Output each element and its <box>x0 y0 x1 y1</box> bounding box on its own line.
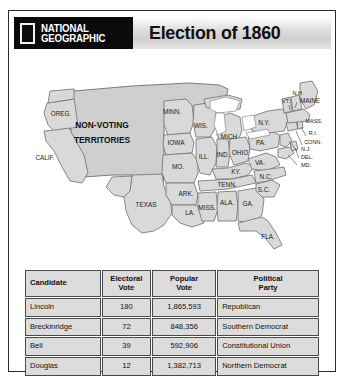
map-label-oregon: OREG. <box>51 110 72 117</box>
cell-electoral-vote: 39 <box>102 337 151 356</box>
table-row: Breckinridge 72 848,356 Southern Democra… <box>25 318 319 337</box>
map-label-new-hampshire: N.H. <box>293 90 304 96</box>
map-label-vermont: VT. <box>282 98 290 104</box>
map-label-california: CALIF. <box>35 154 54 161</box>
infographic-card: NATIONAL GEOGRAPHIC Election of 1860 <box>8 10 336 372</box>
national-geographic-logo: NATIONAL GEOGRAPHIC <box>14 17 133 49</box>
cell-political-party: Constitutional Union <box>217 337 319 356</box>
ng-wordmark-line2: GEOGRAPHIC <box>41 33 105 44</box>
cell-popular-vote: 1,865,593 <box>152 298 216 317</box>
map-label-arkansas: ARK. <box>179 190 194 197</box>
map-label-ohio: OHIO <box>232 149 248 156</box>
cell-candidate: Lincoln <box>25 298 101 317</box>
title-banner: Election of 1860 <box>133 17 331 49</box>
map-label-new-jersey: N.J. <box>301 146 311 152</box>
cell-popular-vote: 1,382,713 <box>152 357 216 376</box>
column-header-electoral-vote: Electoral Vote <box>102 270 151 297</box>
table-row: Douglas 12 1,382,713 Northern Democrat <box>25 357 319 376</box>
map-label-alabama: ALA. <box>220 199 234 206</box>
column-header-popular-vote: Popular Vote <box>152 270 216 297</box>
column-header-electoral-line2: Vote <box>118 283 134 292</box>
cell-electoral-vote: 180 <box>102 298 151 317</box>
map-label-wisconsin: WIS. <box>194 122 208 129</box>
election-map: NON-VOTING TERRITORIES OREG. CALIF. MINN… <box>14 55 331 261</box>
map-label-minnesota: MINN. <box>163 108 181 115</box>
cell-candidate: Douglas <box>25 357 101 376</box>
table-header-row: Candidate Electoral Vote Popular Vote Po… <box>25 270 319 297</box>
table-row: Bell 39 592,906 Constitutional Union <box>25 337 319 356</box>
map-label-michigan: MICH <box>221 133 238 140</box>
map-label-rhode-island: R.I. <box>309 130 318 136</box>
cell-electoral-vote: 72 <box>102 318 151 337</box>
header-bar: NATIONAL GEOGRAPHIC Election of 1860 <box>14 17 331 49</box>
map-label-connecticut: CONN. <box>304 139 322 145</box>
cell-popular-vote: 592,906 <box>152 337 216 356</box>
map-label-indiana: IND. <box>217 151 230 158</box>
map-label-missouri: MO. <box>172 163 184 170</box>
column-header-political-party: Political Party <box>217 270 319 297</box>
table-row: Lincoln 180 1,865,593 Republican <box>25 298 319 317</box>
column-header-party-line2: Party <box>259 283 278 292</box>
map-label-texas: TEXAS <box>136 201 157 208</box>
map-label-georgia: GA. <box>242 200 253 207</box>
map-label-virginia: VA. <box>255 159 265 166</box>
column-header-popular-line2: Vote <box>176 283 192 292</box>
map-label-maryland: MD. <box>301 162 312 168</box>
map-label-delaware: DEL. <box>301 154 314 160</box>
map-label-florida: FLA. <box>261 233 275 240</box>
map-label-louisiana: LA. <box>185 209 195 216</box>
cell-political-party: Republican <box>217 298 319 317</box>
election-results-table: Candidate Electoral Vote Popular Vote Po… <box>24 269 320 377</box>
page-title: Election of 1860 <box>149 22 280 44</box>
ng-wordmark-line1: NATIONAL <box>41 23 105 34</box>
map-label-kentucky: KY. <box>231 168 241 175</box>
cell-candidate: Breckinridge <box>25 318 101 337</box>
cell-electoral-vote: 12 <box>102 357 151 376</box>
map-label-iowa: IOWA <box>168 139 186 146</box>
map-label-new-york: N.Y. <box>258 119 270 126</box>
ng-rectangle-icon <box>20 23 35 44</box>
map-label-pennsylvania: PA. <box>256 139 266 146</box>
column-header-candidate: Candidate <box>25 270 101 297</box>
cell-popular-vote: 848,356 <box>152 318 216 337</box>
cell-political-party: Southern Democrat <box>217 318 319 337</box>
map-label-non-voting-territories-line2: TERRITORIES <box>74 135 131 145</box>
map-label-tennessee: TENN. <box>217 181 236 188</box>
cell-candidate: Bell <box>25 337 101 356</box>
map-label-north-carolina: N.C. <box>260 173 273 180</box>
map-label-non-voting-territories-line1: NON-VOTING <box>75 120 129 130</box>
cell-political-party: Northern Democrat <box>217 357 319 376</box>
map-label-mississippi: MISS. <box>198 204 216 211</box>
ng-wordmark: NATIONAL GEOGRAPHIC <box>41 23 105 44</box>
map-label-massachusetts: MASS. <box>305 118 323 124</box>
map-label-south-carolina: S.C. <box>258 186 271 193</box>
map-label-maine: MAINE <box>300 97 320 104</box>
map-label-illinois: ILL. <box>199 153 210 160</box>
